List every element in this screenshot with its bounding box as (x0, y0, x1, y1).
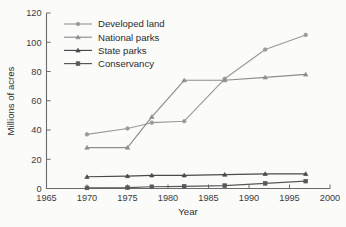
legend-label: National parks (98, 32, 160, 43)
y-tick-label: 40 (31, 125, 41, 135)
data-point-marker (182, 119, 186, 123)
x-tick-label: 1985 (198, 193, 218, 203)
x-axis-title: Year (178, 206, 198, 217)
line-chart-figure: 020406080100120 196519701975198019851990… (0, 0, 346, 227)
data-point-marker (304, 179, 308, 183)
data-point-marker (150, 185, 154, 189)
data-point-marker (223, 184, 227, 188)
data-point-marker (85, 133, 89, 137)
legend-entry: National parks (64, 32, 160, 43)
x-tick-label: 1995 (279, 193, 299, 203)
data-point-marker (304, 33, 308, 37)
legend-marker-circle (76, 22, 80, 26)
x-tick-label: 2000 (320, 193, 340, 203)
axes-frame (47, 13, 331, 189)
data-point-marker (263, 48, 267, 52)
y-tick-label: 60 (31, 96, 41, 106)
series-line (87, 74, 306, 147)
legend-label: Developed land (98, 18, 165, 29)
x-tick-label: 1965 (36, 193, 56, 203)
legend-entry: Developed land (64, 18, 165, 29)
data-point-marker (263, 182, 267, 186)
x-tick-label: 1975 (117, 193, 137, 203)
y-axis-title: Millions of acres (5, 66, 16, 135)
data-point-marker (126, 127, 130, 131)
data-series-group (85, 33, 308, 190)
x-axis-ticks: 19651970197519801985199019952000 (36, 185, 340, 203)
x-tick-label: 1990 (239, 193, 259, 203)
legend-marker-square (76, 62, 80, 66)
series-state-parks (85, 172, 308, 179)
x-tick-label: 1980 (158, 193, 178, 203)
y-tick-label: 100 (26, 38, 41, 48)
y-tick-label: 120 (26, 8, 41, 18)
legend-entry: Conservancy (64, 58, 154, 69)
x-tick-label: 1970 (77, 193, 97, 203)
series-line (87, 181, 306, 188)
legend-label: State parks (98, 45, 147, 56)
data-point-marker (150, 121, 154, 125)
data-point-marker (126, 186, 130, 190)
legend-entry: State parks (64, 45, 147, 56)
legend-label: Conservancy (98, 58, 154, 69)
y-tick-label: 20 (31, 155, 41, 165)
chart-canvas: 020406080100120 196519701975198019851990… (0, 0, 346, 227)
series-line (87, 174, 306, 177)
data-point-marker (85, 186, 89, 190)
chart-legend: Developed landNational parksState parksC… (64, 18, 165, 69)
data-point-marker (182, 184, 186, 188)
series-national-parks (85, 72, 308, 149)
axis-lines (47, 13, 331, 189)
y-tick-label: 80 (31, 67, 41, 77)
